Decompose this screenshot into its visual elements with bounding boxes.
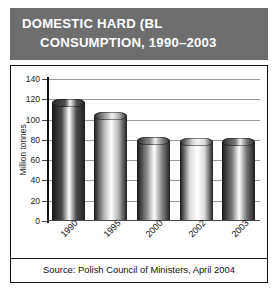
y-axis-tick-label: 140 (26, 74, 40, 84)
bar-2003[interactable] (222, 138, 255, 221)
y-axis-line (47, 77, 49, 223)
chart-title-band: DOMESTIC HARD (BL CONSUMPTION, 1990–2003 (10, 8, 268, 60)
bar-1995[interactable] (94, 112, 127, 221)
bar-1990[interactable] (52, 99, 85, 221)
x-axis-labels: 19901995200020022003 (47, 223, 260, 263)
y-axis-title-label: Million tonnes (18, 124, 28, 175)
x-label-slot: 1990 (49, 223, 87, 263)
y-axis-tick-label: 20 (30, 196, 40, 206)
bar-2000[interactable] (137, 137, 170, 221)
bar-body (94, 116, 127, 221)
bar-body (180, 142, 213, 221)
chart-title: DOMESTIC HARD (BL CONSUMPTION, 1990–2003 (20, 14, 258, 52)
x-label-slot: 2002 (177, 223, 215, 263)
bar-body (137, 141, 170, 221)
bar-slot (134, 79, 172, 221)
plot-inner: 020406080100120140 (47, 79, 260, 221)
bar-body (222, 142, 255, 221)
bar-cap-outline (94, 112, 127, 120)
y-axis-tick-label: 80 (30, 135, 40, 145)
chart-title-line-1: DOMESTIC HARD (BL (20, 14, 258, 33)
bar-cap-outline (137, 137, 170, 145)
y-axis-tick-label: 40 (30, 175, 40, 185)
bar-cap-outline (180, 138, 213, 146)
bars-group (47, 79, 260, 221)
x-axis-tick-label: 2000 (144, 218, 165, 239)
bar-slot (49, 79, 87, 221)
x-axis-tick-label: 2003 (229, 218, 250, 239)
source-divider (11, 258, 267, 259)
y-axis-tick-label: 60 (30, 155, 40, 165)
source-note: Source: Polish Council of Ministers, Apr… (11, 264, 267, 275)
y-axis-tick-label: 0 (35, 216, 40, 226)
chart-title-line-2: CONSUMPTION, 1990–2003 (20, 33, 258, 52)
y-axis-tick-label: 100 (26, 115, 40, 125)
bar-slot (92, 79, 130, 221)
x-axis-tick-label: 1995 (101, 218, 122, 239)
x-axis-tick-label: 2002 (187, 218, 208, 239)
bar-slot (220, 79, 258, 221)
x-axis-tick-label: 1990 (59, 218, 80, 239)
x-label-slot: 2000 (134, 223, 172, 263)
bar-2002[interactable] (180, 138, 213, 221)
x-label-slot: 1995 (92, 223, 130, 263)
plot-region: 020406080100120140 (47, 79, 260, 221)
bar-cap-outline (222, 138, 255, 146)
chart-figure: DOMESTIC HARD (BL CONSUMPTION, 1990–2003… (0, 0, 277, 291)
y-axis-tick-label: 120 (26, 94, 40, 104)
chart-frame: Million tonnes 020406080100120140 199019… (10, 65, 268, 283)
bar-cap-outline (52, 99, 85, 107)
bar-slot (177, 79, 215, 221)
x-label-slot: 2003 (220, 223, 258, 263)
bar-body (52, 103, 85, 221)
